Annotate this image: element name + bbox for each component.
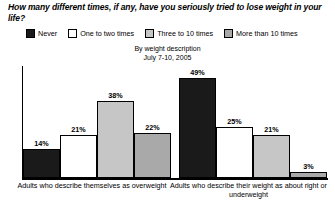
bar-value-label: 25% bbox=[216, 118, 253, 126]
legend-item-one-to-two-times[interactable]: One to two times bbox=[68, 29, 134, 38]
bar-cell[interactable]: 21% bbox=[253, 66, 290, 178]
bar-cell[interactable]: 14% bbox=[23, 66, 60, 178]
bar[interactable] bbox=[253, 135, 290, 178]
bar-cell[interactable]: 25% bbox=[216, 66, 253, 178]
bar-value-label: 49% bbox=[179, 69, 216, 77]
legend-swatch-one-to-two-times bbox=[68, 29, 77, 38]
chart-legend: Never One to two times Three to 10 times… bbox=[26, 27, 326, 39]
bar-value-label: 22% bbox=[134, 124, 171, 132]
bar-cell[interactable]: 22% bbox=[134, 66, 171, 178]
legend-label-more-than-10-times: More than 10 times bbox=[236, 29, 298, 38]
category-label-overweight: Adults who describe themselves as overwe… bbox=[12, 182, 172, 191]
subtitle-line-2: July 7-10, 2005 bbox=[0, 54, 335, 63]
legend-swatch-three-to-10-times bbox=[145, 29, 154, 38]
bar-cell[interactable]: 38% bbox=[97, 66, 134, 178]
bar-value-label: 21% bbox=[253, 126, 290, 134]
legend-label-one-to-two-times: One to two times bbox=[80, 29, 134, 38]
bar-cell[interactable]: 21% bbox=[60, 66, 97, 178]
bar[interactable] bbox=[290, 172, 327, 178]
subtitle-line-1: By weight description bbox=[0, 45, 335, 54]
bar[interactable] bbox=[179, 78, 216, 178]
bar[interactable] bbox=[60, 135, 97, 178]
legend-item-three-to-10-times[interactable]: Three to 10 times bbox=[145, 29, 213, 38]
bar[interactable] bbox=[134, 133, 171, 178]
plot-area: 14% 21% 38% 22% 49% 25% bbox=[22, 66, 328, 178]
category-label-about-right-or-underweight: Adults who describe their weight as abou… bbox=[166, 182, 331, 199]
chart-title: How many different times, if any, have y… bbox=[8, 2, 328, 23]
bar[interactable] bbox=[23, 149, 60, 178]
bar-cell[interactable]: 3% bbox=[290, 66, 327, 178]
bar-value-label: 3% bbox=[290, 163, 327, 171]
legend-swatch-never bbox=[26, 29, 35, 38]
legend-label-never: Never bbox=[38, 29, 57, 38]
legend-item-more-than-10-times[interactable]: More than 10 times bbox=[224, 29, 298, 38]
legend-item-never[interactable]: Never bbox=[26, 29, 57, 38]
legend-label-three-to-10-times: Three to 10 times bbox=[157, 29, 213, 38]
x-axis-line bbox=[22, 178, 328, 180]
bar-group-about-right-or-underweight: 49% 25% 21% 3% bbox=[179, 66, 327, 178]
bar-value-label: 14% bbox=[23, 140, 60, 148]
bar-value-label: 38% bbox=[97, 92, 134, 100]
bar-group-overweight: 14% 21% 38% 22% bbox=[23, 66, 171, 178]
chart-page: How many different times, if any, have y… bbox=[0, 0, 335, 208]
bar[interactable] bbox=[216, 127, 253, 178]
legend-swatch-more-than-10-times bbox=[224, 29, 233, 38]
bar-value-label: 21% bbox=[60, 126, 97, 134]
bar-cell[interactable]: 49% bbox=[179, 66, 216, 178]
chart-subtitle: By weight description July 7-10, 2005 bbox=[0, 45, 335, 62]
bar[interactable] bbox=[97, 101, 134, 178]
